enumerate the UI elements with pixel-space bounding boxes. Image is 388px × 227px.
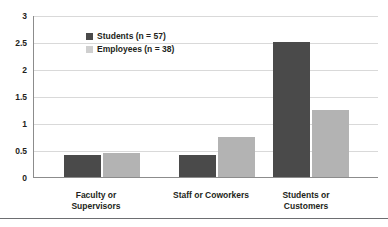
gridline xyxy=(34,16,378,17)
bar-employees-faculty xyxy=(103,153,140,177)
y-axis-tick-label: 0 xyxy=(0,174,27,183)
legend-item-label: Students (n = 57) xyxy=(97,32,166,41)
y-axis-tick-label: 0.5 xyxy=(0,147,27,156)
plot-area xyxy=(33,16,378,178)
bar-employees-customers xyxy=(312,110,349,178)
chart-legend: Students (n = 57) Employees (n = 38) xyxy=(86,31,174,57)
legend-swatch-icon xyxy=(86,33,93,40)
bottom-divider xyxy=(0,218,388,219)
x-axis-category-label-faculty: Faculty or Supervisors xyxy=(41,190,151,212)
bar-chart-figure: 3 2.5 2 1.5 1 0.5 0 Students (n = 57) xyxy=(0,0,388,227)
legend-swatch-icon xyxy=(86,46,93,53)
bar-students-staff xyxy=(179,155,216,177)
y-axis-tick-label: 2.5 xyxy=(0,39,27,48)
gridline xyxy=(34,97,378,98)
x-axis-category-label-customers: Students or Customers xyxy=(250,190,362,212)
y-axis-tick-label: 2 xyxy=(0,66,27,75)
bar-students-faculty xyxy=(64,155,101,177)
bar-employees-staff xyxy=(218,137,255,178)
legend-item-employees: Employees (n = 38) xyxy=(86,44,174,55)
bar-students-customers xyxy=(273,42,310,177)
y-axis-tick-label: 3 xyxy=(0,12,27,21)
y-axis-tick-label: 1 xyxy=(0,120,27,129)
gridline xyxy=(34,70,378,71)
legend-item-students: Students (n = 57) xyxy=(86,31,174,42)
y-axis-tick-label: 1.5 xyxy=(0,93,27,102)
legend-item-label: Employees (n = 38) xyxy=(97,45,174,54)
